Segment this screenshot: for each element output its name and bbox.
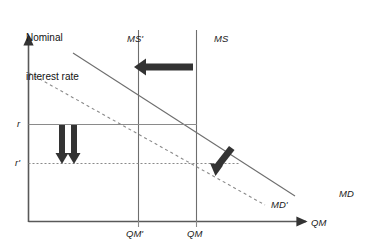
- y-tick-label-r: r: [17, 118, 20, 130]
- y-tick-label-r-prime: r': [15, 157, 20, 169]
- md-label: MD: [339, 188, 354, 200]
- md-prime-label: MD': [271, 199, 288, 211]
- ms-prime-label: MS': [127, 33, 143, 45]
- x-tick-label-qm: QM: [187, 228, 202, 240]
- money-supply-shift-arrow: [134, 59, 193, 76]
- y-axis-title-line1: Nominal: [26, 31, 79, 44]
- interest-rate-fall-arrow-2: [68, 125, 81, 164]
- y-axis-title-line2: interest rate: [26, 70, 79, 83]
- x-axis-title: QM: [311, 217, 326, 229]
- x-tick-label-qm-prime: QM': [126, 228, 143, 240]
- y-axis-title: Nominal interest rate: [26, 5, 79, 109]
- money-demand-shift-arrow: [210, 146, 235, 176]
- interest-rate-fall-arrow-1: [56, 125, 69, 164]
- money-market-diagram: Nominal interest rate QM r r' QM' QM MS'…: [0, 0, 378, 249]
- ms-label: MS: [214, 33, 228, 45]
